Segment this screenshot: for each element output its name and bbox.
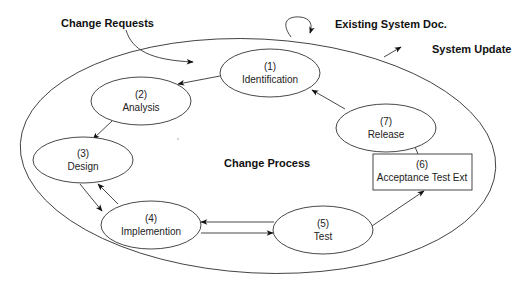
node-2-label: Analysis — [122, 102, 159, 113]
node-5-number: (5) — [317, 218, 329, 229]
change-requests-arrow — [126, 30, 193, 62]
node-4-label: Implemention — [121, 226, 181, 237]
node-design: (3) Design — [33, 137, 133, 183]
node-1-label: Identification — [242, 74, 298, 85]
edge-1-to-2 — [178, 76, 220, 84]
change-requests-label: Change Requests — [61, 17, 154, 29]
system-update-label: System Update — [432, 43, 511, 55]
node-5-label: Test — [314, 231, 333, 242]
node-2-number: (2) — [135, 89, 147, 100]
node-3-label: Design — [67, 161, 98, 172]
node-6-number: (6) — [416, 159, 428, 170]
edge-5-to-6 — [372, 191, 424, 226]
node-test: (5) Test — [273, 206, 373, 254]
node-3-number: (3) — [77, 148, 89, 159]
change-process-label: Change Process — [224, 157, 310, 169]
existing-system-doc-label: Existing System Doc. — [335, 18, 447, 30]
node-7-label: Release — [368, 129, 405, 140]
node-release: (7) Release — [336, 104, 436, 152]
existing-doc-self-loop — [286, 17, 311, 37]
node-analysis: (2) Analysis — [91, 77, 191, 125]
edge-7-to-1 — [312, 90, 345, 109]
change-process-diagram: (1) Identification (2) Analysis (3) Desi… — [0, 0, 512, 285]
node-implemention: (4) Implemention — [101, 201, 201, 249]
stray-dot — [177, 138, 178, 139]
system-update-arrow — [384, 47, 401, 57]
node-4-number: (4) — [145, 213, 157, 224]
node-1-number: (1) — [264, 61, 276, 72]
node-acceptance-test-ext: (6) Acceptance Test Ext — [373, 154, 472, 190]
edge-2-to-3 — [93, 121, 112, 139]
node-identification: (1) Identification — [220, 49, 320, 97]
edge-3-to-4 — [80, 184, 102, 211]
node-6-label: Acceptance Test Ext — [377, 172, 468, 183]
edge-4-to-3 — [98, 184, 118, 204]
node-7-number: (7) — [380, 116, 392, 127]
